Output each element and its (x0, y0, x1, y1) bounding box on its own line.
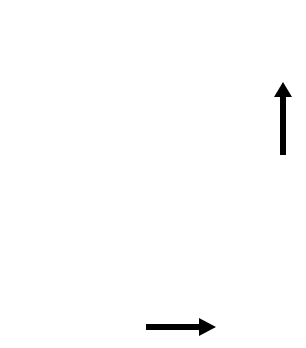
grid-diagram (0, 0, 306, 348)
up-arrow-icon (274, 82, 292, 155)
right-arrow-icon (146, 318, 216, 336)
